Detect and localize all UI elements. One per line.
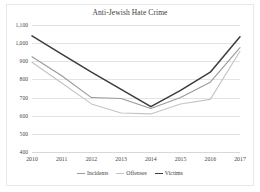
- x-axis-tick-label: 2010: [17, 156, 47, 162]
- x-axis-tick-label: 2012: [76, 156, 106, 162]
- legend-label: Offenses: [126, 170, 147, 176]
- x-axis-tick-label: 2016: [195, 156, 225, 162]
- legend-label: Incidents: [87, 170, 108, 176]
- y-axis-tick-label: 400: [2, 149, 28, 155]
- legend-swatch-icon: [155, 173, 163, 174]
- x-axis-tick-label: 2014: [136, 156, 166, 162]
- legend-swatch-icon: [116, 173, 124, 174]
- y-axis-tick-label: 700: [2, 95, 28, 101]
- legend-label: Victims: [165, 170, 183, 176]
- x-axis-tick-label: 2011: [47, 156, 77, 162]
- x-axis-line: [32, 152, 240, 153]
- y-axis-tick-label: 800: [2, 76, 28, 82]
- x-axis-tick-label: 2013: [106, 156, 136, 162]
- x-axis-tick-label: 2015: [166, 156, 196, 162]
- series-lines: [32, 25, 240, 152]
- chart-title: Anti-Jewish Hate Crime: [0, 8, 260, 17]
- chart-figure: Anti-Jewish Hate Crime 1,1001,0009008007…: [0, 0, 260, 192]
- y-axis-tick-label: 600: [2, 113, 28, 119]
- x-axis-tick-label: 2017: [225, 156, 255, 162]
- y-axis-tick-label: 900: [2, 58, 28, 64]
- series-line-victims: [32, 36, 240, 107]
- legend-swatch-icon: [77, 173, 85, 174]
- chart-legend: IncidentsOffensesVictims: [0, 170, 260, 176]
- y-axis-tick-label: 1,100: [2, 22, 28, 28]
- legend-item-victims[interactable]: Victims: [155, 170, 183, 176]
- legend-item-offenses[interactable]: Offenses: [116, 170, 147, 176]
- y-axis-tick-label: 1,000: [2, 40, 28, 46]
- y-axis-tick-label: 500: [2, 131, 28, 137]
- legend-item-incidents[interactable]: Incidents: [77, 170, 108, 176]
